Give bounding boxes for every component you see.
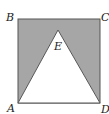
- label-e: E: [53, 40, 62, 53]
- label-d: D: [100, 103, 109, 114]
- geometry-diagram: B C A D E: [0, 0, 109, 114]
- label-b: B: [5, 11, 14, 24]
- label-a: A: [6, 102, 15, 114]
- label-c: C: [101, 11, 109, 24]
